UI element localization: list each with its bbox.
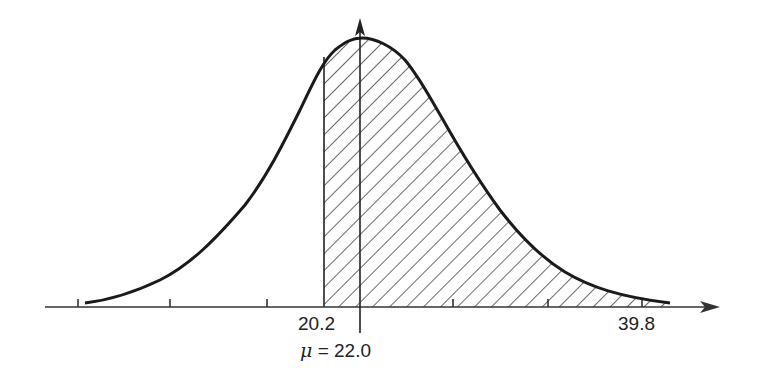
mean-value: = 22.0 [312, 340, 371, 361]
mu-symbol: μ [300, 339, 312, 361]
upper-bound-label: 39.8 [618, 313, 655, 334]
mean-label: μ = 22.0 [300, 339, 371, 361]
distribution-figure: 20.2 39.8 μ = 22.0 [0, 0, 765, 392]
lower-bound-label: 20.2 [298, 313, 335, 334]
shaded-region [320, 30, 680, 310]
